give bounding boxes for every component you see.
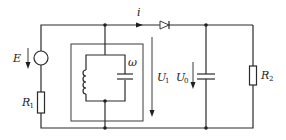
inductor-icon: [83, 70, 86, 94]
label-r2: R: [260, 69, 269, 82]
top-left-wire: [41, 25, 105, 51]
u1-arrow-head-icon: [150, 110, 155, 117]
label-u1-sub: 1: [165, 77, 169, 85]
diode-icon: [160, 21, 169, 29]
resistor-r2-icon: [250, 66, 257, 85]
current-arrow-icon: [136, 23, 143, 28]
resistor-r1-icon: [38, 92, 45, 113]
u1-indicator: U 1: [150, 37, 170, 117]
label-omega: ω: [128, 56, 137, 69]
label-r2-sub: 2: [269, 75, 273, 83]
tank-top-wire: [86, 55, 125, 74]
lc-tank: ω: [71, 23, 143, 130]
tank-bottom-wire: [86, 80, 125, 101]
label-r1-sub: 1: [30, 102, 34, 110]
left-branch: E R 1: [12, 25, 105, 128]
label-e: E: [12, 52, 21, 65]
e-arrow-head-icon: [26, 62, 31, 69]
top-path: i: [105, 6, 253, 29]
voltage-source-icon: [34, 51, 48, 65]
output-capacitor: U 0: [176, 25, 215, 130]
load-resistor: R 2: [105, 25, 273, 128]
label-u0-sub: 0: [184, 77, 188, 85]
circuit-diagram: E R 1 ω i U 1: [0, 0, 286, 140]
u0-arrow-head-icon: [191, 82, 196, 89]
bottom-right-wire: [105, 85, 253, 128]
label-i: i: [137, 6, 141, 19]
